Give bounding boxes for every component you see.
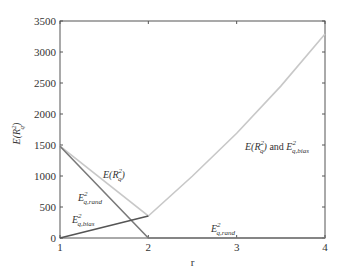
annotation-e-rand: E2q,rand xyxy=(77,190,103,206)
x-axis-label: r xyxy=(191,256,195,268)
x-tick-label: 3 xyxy=(234,241,240,253)
y-tick-label: 1000 xyxy=(34,170,57,182)
annotations: E(R2q)E2q,randE2q,biasE(R2q) and E2q,bia… xyxy=(71,139,309,237)
y-tick-label: 0 xyxy=(51,232,57,244)
x-tick-label: 4 xyxy=(322,241,328,253)
y-tick-label: 3000 xyxy=(34,46,57,58)
annotation-e-rq2: E(R2q) xyxy=(102,167,126,183)
plot-lines xyxy=(60,34,325,238)
y-tick-label: 2500 xyxy=(34,77,57,89)
chart: 05001000150020002500300035001234rE(R2q) … xyxy=(0,0,339,278)
annotation-e-rand-right: E2q,rand xyxy=(210,221,236,237)
series-line xyxy=(60,34,325,216)
series-line xyxy=(60,146,325,238)
x-tick-label: 2 xyxy=(146,241,152,253)
y-tick-label: 3500 xyxy=(34,15,57,27)
y-tick-label: 1500 xyxy=(34,139,57,151)
x-tick-label: 1 xyxy=(57,241,63,253)
y-axis-label: E(R2q) xyxy=(10,122,26,146)
annotation-e-bias: E2q,bias xyxy=(71,212,95,228)
y-tick-label: 2000 xyxy=(34,108,57,120)
y-tick-label: 500 xyxy=(40,201,57,213)
annotation-e-rq2-and-bias: E(R2q) and E2q,bias xyxy=(244,139,309,155)
